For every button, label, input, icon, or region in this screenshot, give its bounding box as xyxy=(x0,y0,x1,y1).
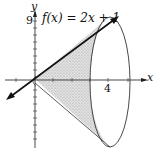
y-axis-label: y xyxy=(31,1,37,12)
x-axis-label: x xyxy=(147,72,153,83)
function-label: f(x) = 2x + 1 xyxy=(42,12,120,24)
cone-shaded-region xyxy=(35,18,110,147)
x-tick-label: 4 xyxy=(104,83,111,94)
line-arrow-bottom-icon xyxy=(6,92,15,100)
y-tick-label: 9 xyxy=(26,15,33,26)
